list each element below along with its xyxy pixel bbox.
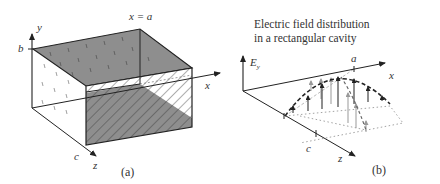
title-line-2: in a rectangular cavity <box>254 33 357 45</box>
caption-b: (b) <box>372 164 386 176</box>
caption-a: (a) <box>121 166 134 178</box>
c-label-b: c <box>306 143 311 154</box>
y-axis-label: y <box>37 22 42 33</box>
x-eq-a-label: x = a <box>129 11 152 22</box>
base-rectangle <box>285 106 403 143</box>
cavity-figure <box>0 0 440 184</box>
panel-b <box>243 56 403 156</box>
a-label: a <box>351 53 357 64</box>
panel-a <box>28 29 220 156</box>
z-axis-label: z <box>93 160 97 171</box>
x-axis-label-b: x <box>389 70 394 81</box>
title-line-1: Electric field distribution <box>254 19 370 31</box>
z-axis-label-b: z <box>338 153 342 164</box>
b-label: b <box>18 43 24 54</box>
x-axis-label: x <box>205 80 210 91</box>
ey-axis-label: Ey <box>250 57 260 71</box>
c-label: c <box>74 151 79 162</box>
